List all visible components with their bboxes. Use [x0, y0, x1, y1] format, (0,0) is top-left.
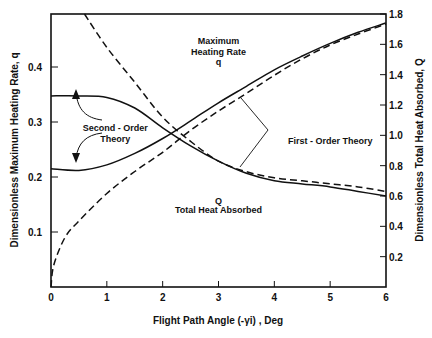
annotation-label: Maximum	[198, 36, 240, 46]
x-tick-label: 1	[104, 292, 110, 303]
y-axis-title: Dimensionless Maximum Heating Rate, q	[9, 52, 20, 247]
x-axis-title: Flight Path Angle (-γi) , Deg	[153, 315, 283, 326]
y-tick-label: 0.4	[28, 62, 42, 73]
y2-tick-label: 1.4	[389, 70, 403, 81]
annotation-label: Heating Rate	[191, 47, 246, 57]
x-tick-label: 2	[160, 292, 166, 303]
arrow-up-icon	[72, 89, 80, 99]
y-tick-label: 0.1	[28, 227, 42, 238]
annotation-label: Total Heat Absorbed	[175, 205, 262, 215]
y2-axis-title: Dimensionless Total Heat Absorbed, Q	[414, 58, 425, 242]
y2-tick-label: 1.2	[389, 100, 403, 111]
arrow-down-line	[76, 133, 102, 158]
x-tick-label: 3	[216, 292, 222, 303]
chart: 01234560.10.20.30.40.20.40.60.81.01.21.4…	[0, 0, 432, 338]
first-order-bracket	[240, 98, 268, 167]
y-tick-label: 0.2	[28, 172, 42, 183]
annotation-label: Theory	[100, 134, 130, 144]
y2-tick-label: 1.6	[389, 39, 403, 50]
x-tick-label: 6	[383, 292, 389, 303]
x-tick-label: 5	[327, 292, 333, 303]
y2-tick-label: 0.8	[389, 161, 403, 172]
y2-tick-label: 0.2	[389, 252, 403, 263]
arrow-down-icon	[72, 153, 80, 163]
text-labels: 01234560.10.20.30.40.20.40.60.81.01.21.4…	[9, 9, 425, 326]
annotation-label: Second - Order	[83, 123, 149, 133]
y2-tick-label: 1.8	[389, 9, 403, 20]
annotation-label: First - Order Theory	[288, 136, 373, 146]
y2-tick-label: 0.6	[389, 191, 403, 202]
y2-tick-label: 1.0	[389, 130, 403, 141]
x-tick-label: 4	[272, 292, 278, 303]
y2-tick-label: 0.4	[389, 221, 403, 232]
y-tick-label: 0.3	[28, 117, 42, 128]
x-tick-label: 0	[48, 292, 54, 303]
annotation-label: q	[216, 57, 222, 67]
